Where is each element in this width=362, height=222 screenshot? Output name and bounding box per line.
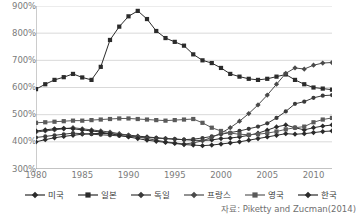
- data-point-marker: [293, 78, 297, 82]
- data-point-marker: [80, 119, 84, 123]
- data-point-marker: [302, 125, 306, 129]
- data-point-marker: [43, 120, 47, 124]
- data-point-marker: [265, 121, 269, 125]
- plot-area: [36, 6, 332, 169]
- data-point-marker: [237, 132, 241, 136]
- data-point-marker: [173, 118, 177, 122]
- data-point-marker: [329, 122, 332, 127]
- data-point-marker: [154, 29, 158, 33]
- y-axis: 900%800%700%600%500%400%300%: [0, 0, 36, 175]
- legend-marker-square-icon: [245, 190, 265, 200]
- source-note: 자료: Piketty and Zucman(2014): [221, 205, 356, 214]
- data-point-marker: [274, 124, 279, 129]
- data-point-marker: [320, 123, 325, 128]
- data-point-marker: [182, 44, 186, 48]
- data-point-marker: [99, 65, 103, 69]
- data-point-marker: [330, 88, 332, 92]
- data-point-marker: [256, 78, 260, 82]
- legend-label: 영국: [268, 191, 284, 200]
- data-point-marker: [117, 25, 121, 29]
- data-point-marker: [200, 58, 204, 62]
- data-point-marker: [52, 133, 56, 137]
- legend-marker-diamond-icon: [184, 190, 204, 200]
- data-point-marker: [36, 139, 39, 144]
- data-point-marker: [283, 122, 288, 127]
- data-point-marker: [71, 72, 75, 76]
- legend-item-1[interactable]: 일본: [78, 190, 117, 200]
- data-point-marker: [247, 77, 251, 81]
- data-point-marker: [191, 192, 198, 199]
- data-point-marker: [284, 109, 288, 113]
- data-point-marker: [247, 133, 251, 137]
- data-point-marker: [89, 118, 93, 122]
- data-point-marker: [182, 117, 186, 121]
- data-point-marker: [154, 118, 158, 122]
- data-point-marker: [228, 135, 233, 140]
- data-point-marker: [36, 135, 38, 139]
- data-point-marker: [182, 138, 186, 142]
- data-point-marker: [163, 140, 168, 145]
- data-point-marker: [62, 119, 66, 123]
- data-point-marker: [237, 75, 241, 79]
- data-point-marker: [321, 86, 325, 90]
- legend-item-4[interactable]: 영국: [245, 190, 284, 200]
- data-point-marker: [311, 130, 316, 135]
- legend-label: 프랑스: [207, 191, 231, 200]
- data-point-marker: [200, 143, 205, 148]
- data-point-marker: [256, 125, 260, 129]
- data-point-marker: [283, 131, 288, 136]
- legend-item-5[interactable]: 한국: [298, 190, 337, 200]
- data-point-marker: [293, 102, 297, 106]
- data-point-marker: [320, 60, 325, 65]
- data-point-marker: [36, 121, 38, 125]
- data-point-marker: [163, 36, 167, 40]
- data-point-marker: [145, 17, 149, 21]
- data-point-marker: [292, 132, 297, 137]
- data-point-marker: [200, 121, 204, 125]
- x-axis: 1980198519901995200020052010: [36, 171, 332, 185]
- data-point-marker: [329, 128, 332, 133]
- data-point-marker: [302, 100, 306, 104]
- data-point-marker: [191, 52, 195, 56]
- legend-item-2[interactable]: 독일: [131, 190, 170, 200]
- data-point-marker: [126, 14, 130, 18]
- data-point-marker: [71, 119, 75, 123]
- data-point-marker: [284, 127, 288, 131]
- data-point-marker: [209, 142, 214, 147]
- data-point-marker: [36, 87, 38, 91]
- data-point-marker: [136, 117, 140, 121]
- legend-marker-diamond-icon: [298, 190, 318, 200]
- legend-marker-square-icon: [78, 190, 98, 200]
- data-point-marker: [163, 119, 167, 123]
- data-point-marker: [302, 66, 307, 71]
- data-point-marker: [181, 142, 186, 147]
- data-point-marker: [302, 82, 306, 86]
- legend-item-3[interactable]: 프랑스: [184, 190, 231, 200]
- y-tick-label: 700%: [2, 56, 36, 65]
- data-point-marker: [218, 136, 223, 141]
- chart-plot-svg: [36, 6, 332, 169]
- data-point-marker: [80, 75, 84, 79]
- data-point-marker: [321, 94, 325, 98]
- x-tick-label: 1990: [118, 171, 140, 180]
- data-point-marker: [321, 117, 325, 121]
- y-tick-label: 600%: [2, 83, 36, 92]
- data-point-marker: [219, 129, 223, 133]
- chart-legend: 미국일본독일프랑스영국한국: [0, 186, 362, 204]
- data-point-marker: [237, 139, 242, 144]
- data-point-marker: [43, 134, 47, 138]
- data-point-marker: [145, 117, 149, 121]
- chart-container: 900%800%700%600%500%400%300% 19801985199…: [0, 0, 362, 222]
- data-point-marker: [292, 65, 297, 70]
- x-tick-label: 1980: [25, 171, 47, 180]
- y-tick-label: 500%: [2, 110, 36, 119]
- legend-label: 한국: [321, 191, 337, 200]
- data-point-marker: [330, 116, 332, 120]
- legend-item-0[interactable]: 미국: [25, 190, 64, 200]
- data-point-marker: [61, 126, 66, 131]
- data-point-marker: [173, 40, 177, 44]
- data-point-marker: [219, 66, 223, 70]
- x-tick-label: 1995: [164, 171, 186, 180]
- legend-label: 독일: [154, 191, 170, 200]
- data-point-marker: [330, 93, 332, 97]
